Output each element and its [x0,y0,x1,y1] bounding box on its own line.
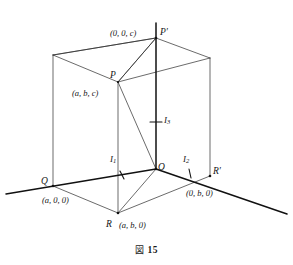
label-i2-subscript: 2 [186,157,189,164]
line-pprime-to-qprime [53,38,156,55]
coordinate-axes [6,23,287,214]
vertex-dot-o [155,168,158,171]
label-i3: I3 [164,116,170,126]
geometry-diagram [0,0,293,265]
label-rprime-point: R′ [213,167,221,177]
label-pprime-coordinate: (0, 0, c) [110,29,136,38]
label-p-coordinate: (a, b, c) [72,89,98,98]
label-i2: I2 [183,155,189,165]
vertex-dot-rprime [209,175,212,178]
construction-lines [53,38,156,213]
x-axis [6,169,156,194]
label-pprime-text: P′ [160,27,168,37]
tick-i2 [189,169,191,178]
label-rprime-text: R′ [213,166,221,176]
y-axis [156,169,287,214]
box-top-edge-p-back [118,58,210,82]
label-p-point: P [110,71,116,81]
line-o-to-p [118,82,156,169]
caption-number: 15 [148,245,159,255]
box-edges [53,38,210,213]
vertex-dot-r [117,212,120,215]
label-pprime-point: P′ [160,28,168,38]
box-top-edge-pprime-back [156,38,210,58]
label-rprime-coordinate: (0, b, 0) [186,189,213,198]
figure-container: (0, 0, c) P′ P (a, b, c) I3 I1 I2 O Q (a… [0,0,293,265]
vertex-dot-q [52,185,55,188]
figure-caption: 図15 [0,243,293,256]
box-top-edge-qp [53,55,118,82]
label-i1: I1 [110,155,116,165]
label-i3-subscript: 3 [167,118,170,125]
label-i1-subscript: 1 [113,157,116,164]
vertex-dot-pprime [155,37,158,40]
vertex-dot-p [117,81,119,83]
label-q-coordinate: (a, 0, 0) [42,196,69,205]
label-origin: O [158,163,165,173]
line-pprime-to-p [118,38,156,82]
label-r-coordinate: (a, b, 0) [119,221,146,230]
label-r-point: R [106,220,112,230]
label-q-point: Q [41,177,48,187]
caption-symbol: 図 [135,245,145,255]
line-o-to-r [118,169,156,213]
